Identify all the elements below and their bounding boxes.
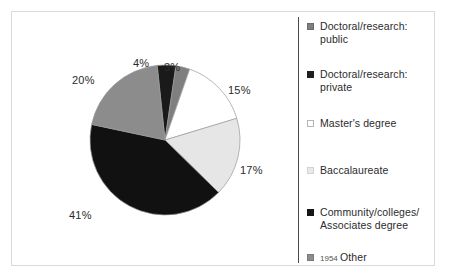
legend-item[interactable]: Master's degree xyxy=(307,117,443,130)
legend-item-label: Doctoral/research: public xyxy=(320,20,408,45)
pie-chart-figure: 4%3%20%15%17%41% Doctoral/research: publ… xyxy=(0,0,449,279)
slice-percent-label: 41% xyxy=(69,209,92,221)
legend-item-label: Community/colleges/ Associates degree xyxy=(320,206,419,231)
legend-item-label: 1954 Other xyxy=(320,251,367,266)
legend-swatch-icon xyxy=(307,71,314,78)
pie-slices xyxy=(90,65,240,215)
slice-percent-label: 3% xyxy=(164,61,180,73)
legend-item-label: Baccalaureate xyxy=(320,164,388,177)
legend-swatch-icon xyxy=(307,209,314,216)
chart-legend: Doctoral/research: publicDoctoral/resear… xyxy=(307,20,443,263)
slice-percent-label: 15% xyxy=(228,84,251,96)
legend-item[interactable]: 1954 Other xyxy=(307,251,443,266)
legend-label-prefix: 1954 xyxy=(320,254,340,263)
legend-swatch-icon xyxy=(307,167,314,174)
legend-item-label: Master's degree xyxy=(320,117,396,130)
legend-item[interactable]: Doctoral/research: private xyxy=(307,68,443,93)
slice-percent-label: 20% xyxy=(72,74,95,86)
legend-swatch-icon xyxy=(307,23,314,30)
legend-swatch-icon xyxy=(307,120,314,127)
plot-area: 4%3%20%15%17%41% xyxy=(12,12,298,265)
legend-item[interactable]: Baccalaureate xyxy=(307,164,443,177)
pie-svg xyxy=(12,12,298,265)
legend-item[interactable]: Doctoral/research: public xyxy=(307,20,443,45)
legend-item[interactable]: Community/colleges/ Associates degree xyxy=(307,206,443,231)
legend-item-label: Doctoral/research: private xyxy=(320,68,408,93)
legend-divider xyxy=(298,17,299,263)
slice-percent-label: 4% xyxy=(133,57,149,69)
slice-percent-label: 17% xyxy=(240,164,263,176)
legend-swatch-icon xyxy=(307,254,314,261)
